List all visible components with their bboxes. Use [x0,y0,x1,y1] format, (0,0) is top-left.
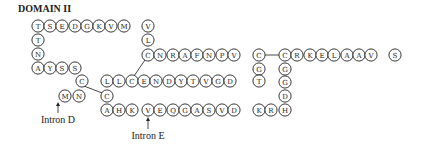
svg-text:E: E [319,52,324,60]
residue-s: S [44,20,56,32]
svg-text:A: A [181,52,188,60]
svg-text:C: C [104,93,109,101]
svg-text:G: G [215,78,221,86]
residue-t: T [32,20,44,32]
svg-text:M: M [61,93,68,101]
residue-s: S [56,62,68,74]
svg-text:A: A [34,65,41,73]
residue-t: T [32,34,44,46]
residue-y: Y [44,62,56,74]
svg-text:L: L [146,37,151,45]
residue-d: D [279,90,291,102]
residue-v: V [216,104,228,116]
residue-d: D [163,75,175,87]
residue-v: V [142,20,154,32]
residue-v: V [228,49,240,61]
svg-text:A: A [343,52,350,60]
svg-text:D: D [227,78,233,86]
svg-text:D: D [72,23,78,31]
svg-text:V: V [144,23,151,31]
residue-m: M [118,20,130,32]
residue-d: D [228,104,240,116]
svg-text:N: N [35,51,41,59]
residue-a: A [191,104,203,116]
svg-text:E: E [59,23,64,31]
residue-n: N [32,48,44,60]
residue-a: A [179,49,191,61]
residue-r: R [167,49,179,61]
residue-e: E [56,20,68,32]
residue-l: L [142,34,154,46]
svg-text:D: D [231,107,237,115]
residue-l: L [328,49,340,61]
residue-g: G [81,20,93,32]
arrow-up-icon [146,117,150,121]
svg-text:D: D [166,78,172,86]
svg-text:E: E [157,107,162,115]
svg-text:G: G [282,79,288,87]
residue-r: R [291,49,303,61]
svg-text:V: V [367,52,374,60]
intron-label: Intron D [41,114,75,125]
svg-text:A: A [103,107,110,115]
residue-n: N [73,90,85,102]
svg-text:M: M [120,23,127,31]
residue-h: H [279,104,291,116]
link-line [84,86,102,93]
svg-text:N: N [206,52,212,60]
svg-text:K: K [256,107,262,115]
residue-c: C [101,90,113,102]
residue-s: S [203,104,215,116]
diagram-title: DOMAIN II [18,3,71,14]
residue-t: T [187,75,199,87]
residue-d: D [224,75,236,87]
svg-text:N: N [76,93,82,101]
residue-l: L [113,75,125,87]
residue-k: K [253,104,265,116]
residue-c: C [126,75,138,87]
svg-text:G: G [282,66,288,74]
residue-g: G [279,76,291,88]
svg-text:K: K [307,52,313,60]
svg-text:Y: Y [47,65,53,73]
svg-text:N: N [153,78,159,86]
svg-text:V: V [202,78,209,86]
svg-text:H: H [282,107,288,115]
svg-text:R: R [170,52,176,60]
svg-text:G: G [84,23,90,31]
svg-text:Q: Q [170,107,176,115]
svg-text:P: P [220,52,225,60]
svg-text:S: S [393,52,398,60]
svg-text:V: V [144,107,151,115]
svg-text:S: S [60,65,65,73]
residue-a: A [341,49,353,61]
residue-a: A [353,49,365,61]
svg-text:L: L [117,78,122,86]
residue-r: R [265,104,277,116]
residue-e: E [316,49,328,61]
svg-text:V: V [218,107,225,115]
svg-text:Y: Y [178,78,184,86]
residue-c: C [76,75,88,87]
svg-text:V: V [230,52,237,60]
residue-s: S [389,49,401,61]
residue-v: V [365,49,377,61]
residue-v: V [142,104,154,116]
residue-g: G [179,104,191,116]
svg-text:V: V [107,23,114,31]
svg-text:N: N [157,52,163,60]
residue-v: V [105,20,117,32]
residue-p: P [216,49,228,61]
link-line [134,60,145,76]
residue-k: K [304,49,316,61]
residue-g: G [253,63,265,75]
svg-text:T: T [191,78,196,86]
svg-text:R: R [294,52,300,60]
residue-h: H [113,104,125,116]
intron-annotation: Intron E [131,117,164,141]
residue-f: F [191,49,203,61]
residue-m: M [59,90,71,102]
svg-text:G: G [256,66,262,74]
svg-text:S: S [207,107,212,115]
svg-text:H: H [116,107,122,115]
